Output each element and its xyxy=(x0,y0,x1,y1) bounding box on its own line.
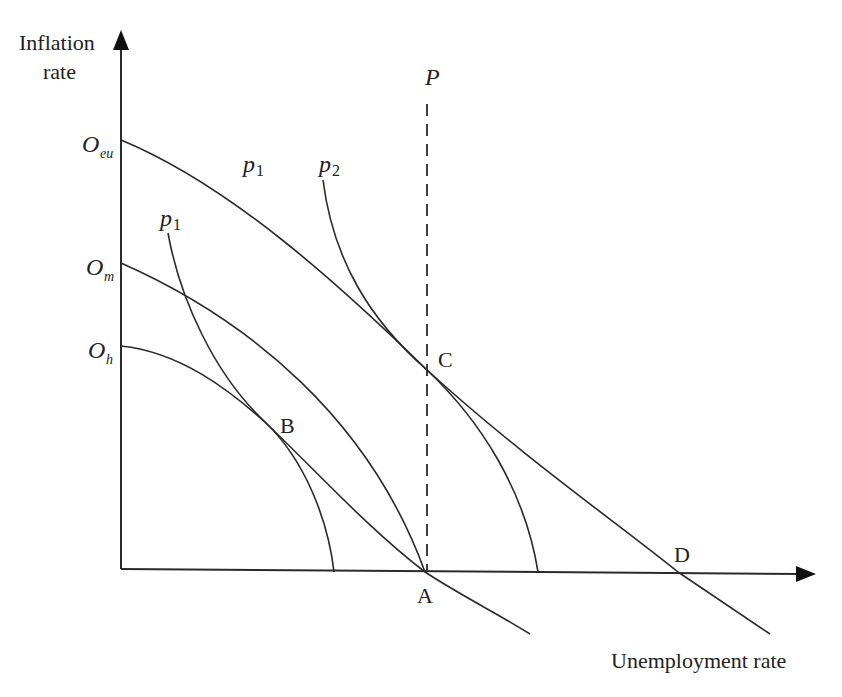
y-axis-arrow-icon xyxy=(113,30,129,50)
point-d-label: D xyxy=(674,542,690,567)
svg-text:1: 1 xyxy=(256,162,264,179)
curve-o-eu xyxy=(121,140,770,634)
svg-text:O: O xyxy=(88,337,105,363)
label-o-eu: O eu xyxy=(82,131,113,161)
x-axis xyxy=(121,569,800,574)
x-axis-arrow-icon xyxy=(796,566,816,582)
svg-text:p: p xyxy=(317,151,331,177)
point-c-label: C xyxy=(438,347,453,372)
point-a-label: A xyxy=(417,583,433,608)
curve-o-m xyxy=(121,263,425,572)
curve-p2 xyxy=(323,180,538,572)
label-p1-upper: p 1 xyxy=(241,151,264,179)
y-axis-label-line2: rate xyxy=(43,59,76,84)
curve-p1-lower xyxy=(168,233,334,572)
svg-text:m: m xyxy=(104,269,114,284)
policy-frontier-diagram: Inflation rate Unemployment rate O eu O … xyxy=(0,0,842,697)
svg-text:1: 1 xyxy=(173,216,181,233)
svg-text:eu: eu xyxy=(100,146,113,161)
label-o-m: O m xyxy=(86,254,114,284)
y-axis-label-line1: Inflation xyxy=(19,30,95,55)
svg-text:p: p xyxy=(158,205,172,231)
x-axis-label: Unemployment rate xyxy=(611,648,786,673)
label-o-h: O h xyxy=(88,337,113,367)
label-p1-lower: p 1 xyxy=(158,205,181,233)
svg-text:2: 2 xyxy=(332,162,340,179)
curve-o-h xyxy=(121,346,530,634)
label-p2: p 2 xyxy=(317,151,340,179)
point-b-label: B xyxy=(280,413,295,438)
svg-text:O: O xyxy=(82,131,99,157)
svg-text:h: h xyxy=(106,352,113,367)
label-p-vertical: P xyxy=(424,64,440,90)
svg-text:O: O xyxy=(86,254,103,280)
svg-text:p: p xyxy=(241,151,255,177)
